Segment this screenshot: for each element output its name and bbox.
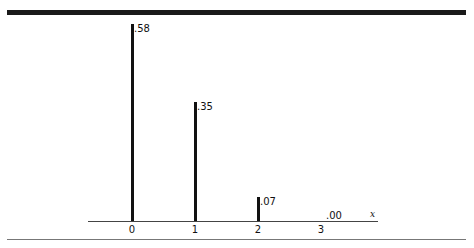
- x-tick-3: 3: [318, 225, 324, 235]
- value-label-1: .35: [197, 102, 213, 112]
- x-tick-0: 0: [129, 225, 135, 235]
- value-label-3: .00: [326, 211, 342, 221]
- bar-0: [131, 24, 134, 221]
- x-tick-2: 2: [255, 225, 261, 235]
- value-label-2: .07: [260, 197, 276, 207]
- top-rule: [7, 10, 466, 15]
- x-axis: [88, 221, 378, 222]
- x-tick-1: 1: [192, 225, 198, 235]
- x-axis-label: x: [370, 210, 375, 219]
- bottom-rule: [7, 239, 466, 240]
- value-label-0: .58: [134, 24, 150, 34]
- bar-1: [194, 102, 197, 221]
